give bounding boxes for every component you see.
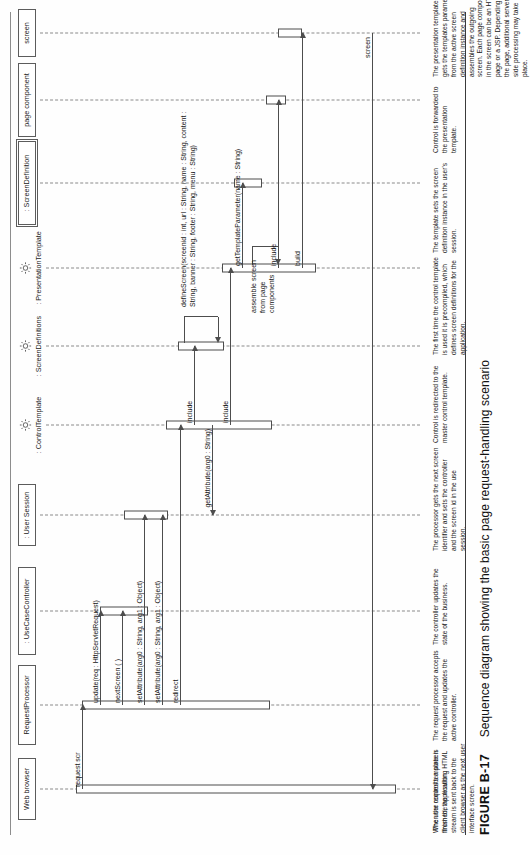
arrowhead-icon <box>178 424 184 430</box>
annotation-n4: The processor gets the next screen ident… <box>432 447 468 551</box>
annotation-n2: The request processor accepts the reques… <box>432 649 459 741</box>
sequence-diagram: Web browserRequestProcessor: UseCaseCont… <box>16 21 420 833</box>
message-label: getAttribute(arg0 : String) <box>204 429 211 508</box>
message-label: setAttribute(arg0 : String, arg1 : Objec… <box>154 581 161 703</box>
arrowhead-icon <box>228 267 234 273</box>
message-label: defineScreen(screenid : int, url : Strin… <box>180 111 198 307</box>
message-label: build <box>294 251 301 266</box>
message-label: request scr <box>74 752 81 787</box>
message-label: include <box>222 401 229 423</box>
component-gear-icon <box>18 419 31 432</box>
message-m3: nextScreen ( ) <box>122 611 123 705</box>
lifeline-header-reqproc[interactable]: RequestProcessor <box>18 665 36 745</box>
annotation-n5: Control is redirected to the master cont… <box>432 359 450 443</box>
lifeline-dash <box>40 100 420 101</box>
self-message-m8: defineScreen(screenid : int, url : Strin… <box>184 317 218 343</box>
arrowhead-icon <box>276 99 282 105</box>
annotation-n7: The template sets the screen definition … <box>432 157 459 253</box>
message-m2: update(req : HttpServletRequest) <box>100 611 101 705</box>
arrowhead-icon <box>142 514 148 520</box>
arrowhead-icon <box>210 510 216 516</box>
arrowhead-icon <box>80 704 86 710</box>
arrowhead-icon <box>120 610 126 616</box>
annotation-n9: The presentation template gets the templ… <box>432 0 530 77</box>
lifeline-header-webbrowser[interactable]: Web browser <box>18 758 36 820</box>
lifeline-header-screen[interactable]: screen <box>18 9 36 57</box>
lifeline-dash <box>40 183 420 184</box>
message-label: nextScreen ( ) <box>114 659 121 703</box>
lifeline-label: : PresentationTemplate <box>34 231 43 305</box>
lifeline-header-usecase[interactable]: : UseCaseController <box>18 567 36 655</box>
message-m5: setAttribute(arg0 : String, arg1 : Objec… <box>162 515 163 705</box>
lifeline-label: : ControlTemplate <box>34 397 43 453</box>
message-m15: screen <box>372 33 373 789</box>
message-label: include <box>186 401 193 423</box>
component-gear-icon <box>18 340 31 353</box>
lifeline-header-screendef[interactable]: : ScreenDefinition <box>18 141 36 225</box>
message-m6: redirect <box>180 425 181 705</box>
message-m4: setAttribute(arg0 : String, arg1 : Objec… <box>144 515 145 705</box>
message-m13: include <box>278 100 279 268</box>
lifeline-dash <box>40 515 420 516</box>
page-bottom-rule <box>465 12 466 835</box>
arrowhead-icon <box>370 784 376 790</box>
message-m7: include <box>194 346 195 425</box>
figure-title: Sequence diagram showing the basic page … <box>478 360 492 737</box>
arrowhead-icon <box>192 345 198 351</box>
annotation-column: The user requests a screen from the appl… <box>432 21 476 833</box>
message-label: update(req : HttpServletRequest) <box>92 600 99 703</box>
arrowhead-icon <box>160 514 166 520</box>
figure-caption: FIGURE B-17 Sequence diagram showing the… <box>478 360 492 835</box>
message-m1: request scr <box>82 705 83 789</box>
message-label: include <box>270 244 277 266</box>
annotation-n10: When the control template is finished, t… <box>432 743 476 833</box>
annotation-n6: The first time the control template is u… <box>432 257 468 355</box>
message-m9: getAttribute(arg0 : String) <box>212 425 213 515</box>
message-label: screen <box>364 37 371 58</box>
activation-bar <box>76 785 396 794</box>
lifeline-dash <box>40 33 420 34</box>
activation-bar <box>278 29 302 38</box>
message-m10: include <box>230 268 231 425</box>
message-label: redirect <box>172 680 179 703</box>
component-gear-icon <box>18 262 31 275</box>
lifeline-dash <box>46 346 420 347</box>
arrowhead-icon <box>300 32 306 38</box>
annotation-n3: The controller updates the state of the … <box>432 555 450 645</box>
message-label: setAttribute(arg0 : String, arg1 : Objec… <box>136 581 143 703</box>
page-top-rule <box>10 12 11 835</box>
lifeline-header-pagecomp[interactable]: page component <box>18 63 36 137</box>
annotation-n8: Control is forwarded to the presentation… <box>432 81 459 153</box>
message-m14: build <box>302 33 303 268</box>
lifeline-header-session[interactable]: : User Session <box>18 484 36 546</box>
figure-number: FIGURE B-17 <box>478 754 492 835</box>
message-label: getTemplateParameter(name : String) <box>234 149 241 266</box>
message-m11: getTemplateParameter(name : String) <box>242 183 243 268</box>
lifeline-label: : ScreenDefinitions <box>34 316 43 376</box>
